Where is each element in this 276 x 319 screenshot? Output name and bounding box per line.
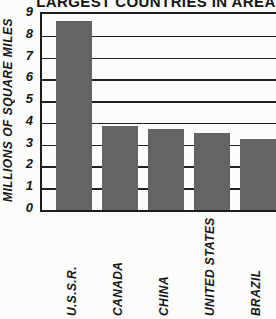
y-tick-label: 4	[26, 113, 33, 129]
x-axis-label: CANADA	[110, 214, 127, 316]
bar-united-states	[194, 133, 230, 210]
y-tick-label: 7	[26, 48, 33, 64]
bar-china	[148, 129, 184, 210]
bar-brazil	[240, 139, 276, 210]
y-tick-label: 5	[26, 91, 33, 107]
x-axis-label: UNITED STATES	[202, 214, 219, 316]
y-tick-label: 2	[26, 156, 33, 172]
y-tick-label: 8	[26, 26, 33, 42]
x-axis-labels: U.S.S.R.CANADACHINAUNITED STATESBRAZIL	[0, 214, 276, 319]
plot-area	[40, 12, 276, 212]
y-tick-label: 9	[26, 4, 33, 20]
x-axis-label: BRAZIL	[248, 214, 265, 316]
chart-title: LARGEST COUNTRIES IN AREA	[36, 0, 276, 10]
y-tick-label: 1	[26, 178, 33, 194]
y-tick-label: 6	[26, 69, 33, 85]
y-tick-label: 3	[26, 135, 33, 151]
y-axis-tick-labels: 0123456789	[0, 12, 37, 208]
bar-chart-figure: LARGEST COUNTRIES IN AREA MILLIONS OF SQ…	[0, 0, 276, 319]
x-axis-label: CHINA	[156, 214, 173, 316]
x-axis-label: U.S.S.R.	[64, 214, 81, 316]
bar-canada	[102, 126, 138, 210]
bar-u-s-s-r	[56, 21, 92, 210]
